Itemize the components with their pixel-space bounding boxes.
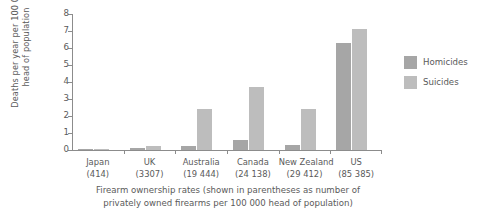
bar-suicides-australia <box>197 109 212 150</box>
bar-suicides-new-zealand <box>301 109 316 150</box>
category-name: Australia <box>175 156 227 168</box>
x-tick-mark <box>381 150 382 154</box>
y-axis-title-line-1: Deaths per year per 100 000 <box>10 0 21 122</box>
bar-homicides-japan <box>78 149 93 150</box>
category-ownership-rate: (3307) <box>124 168 176 180</box>
category-name: New Zealand <box>279 156 331 168</box>
caption-line-2: privately owned firearms per 100 000 hea… <box>52 197 404 210</box>
legend-swatch-icon <box>404 56 417 69</box>
bar-homicides-australia <box>181 146 196 150</box>
caption-line-1: Firearm ownership rates (shown in parent… <box>52 184 404 197</box>
category-ownership-rate: (85 385) <box>330 168 382 180</box>
chart-caption: Firearm ownership rates (shown in parent… <box>52 184 404 209</box>
bar-homicides-canada <box>233 140 248 150</box>
y-tick-label: 7 <box>64 25 69 36</box>
bar-group <box>124 14 176 150</box>
plot-area: 012345678 Japan(414)UK(3307)Australia(19… <box>72 14 382 150</box>
category-ownership-rate: (29 412) <box>279 168 331 180</box>
y-axis-title-line-2: head of population <box>21 0 32 122</box>
y-tick-label: 4 <box>64 76 69 87</box>
legend-item-homicides[interactable]: Homicides <box>404 56 499 69</box>
category-label-canada: Canada(24 138) <box>227 156 279 180</box>
bar-suicides-uk <box>146 146 161 150</box>
bar-group <box>279 14 331 150</box>
legend-item-suicides[interactable]: Suicides <box>404 76 499 89</box>
bar-group <box>227 14 279 150</box>
y-tick-label: 6 <box>64 42 69 53</box>
bar-group <box>175 14 227 150</box>
bar-group <box>330 14 382 150</box>
legend-swatch-icon <box>404 76 417 89</box>
legend-label: Suicides <box>423 77 459 88</box>
category-label-australia: Australia(19 444) <box>175 156 227 180</box>
bar-suicides-us <box>352 29 367 150</box>
bar-chart-figure: Deaths per year per 100 000 head of popu… <box>0 0 501 221</box>
category-label-us: US(85 385) <box>330 156 382 180</box>
category-label-new-zealand: New Zealand(29 412) <box>279 156 331 180</box>
bar-group <box>72 14 124 150</box>
x-tick-mark <box>227 150 228 154</box>
bar-homicides-new-zealand <box>285 145 300 150</box>
legend-label: Homicides <box>423 57 468 68</box>
category-ownership-rate: (414) <box>72 168 124 180</box>
category-label-uk: UK(3307) <box>124 156 176 180</box>
bar-suicides-japan <box>94 149 109 150</box>
x-tick-mark <box>330 150 331 154</box>
bar-homicides-uk <box>130 148 145 150</box>
chart-legend: HomicidesSuicides <box>404 56 499 96</box>
bar-homicides-us <box>336 43 351 150</box>
y-tick-label: 3 <box>64 93 69 104</box>
category-name: UK <box>124 156 176 168</box>
y-tick-label: 5 <box>64 59 69 70</box>
x-tick-mark <box>279 150 280 154</box>
category-name: Japan <box>72 156 124 168</box>
category-label-japan: Japan(414) <box>72 156 124 180</box>
x-tick-mark <box>124 150 125 154</box>
category-ownership-rate: (19 444) <box>175 168 227 180</box>
y-tick-label: 1 <box>64 127 69 138</box>
y-tick-label: 0 <box>64 144 69 155</box>
category-name: US <box>330 156 382 168</box>
y-tick-label: 2 <box>64 110 69 121</box>
category-ownership-rate: (24 138) <box>227 168 279 180</box>
x-tick-mark <box>175 150 176 154</box>
y-tick-label: 8 <box>64 8 69 19</box>
category-name: Canada <box>227 156 279 168</box>
bar-suicides-canada <box>249 87 264 150</box>
y-axis-title: Deaths per year per 100 000 head of popu… <box>10 0 44 122</box>
